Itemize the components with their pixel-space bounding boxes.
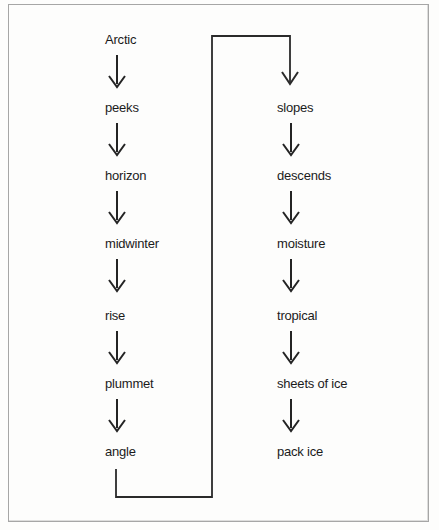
down-arrow-icon xyxy=(278,329,304,367)
flow-term-sheets-of-ice: sheets of ice xyxy=(277,375,347,393)
flow-term-midwinter: midwinter xyxy=(105,235,159,253)
flow-term-horizon: horizon xyxy=(105,167,146,185)
down-arrow-icon xyxy=(104,257,130,295)
down-arrow-icon xyxy=(104,329,130,367)
down-arrow-icon xyxy=(278,257,304,295)
flow-term-plummet: plummet xyxy=(105,375,153,393)
flow-term-peeks: peeks xyxy=(105,99,139,117)
down-arrow-icon xyxy=(104,121,130,159)
worksheet-page: Arctic peeks horizon midwinter rise plum… xyxy=(0,0,439,530)
flow-term-tropical: tropical xyxy=(277,307,317,325)
flow-term-angle: angle xyxy=(105,443,136,461)
flow-term-arctic: Arctic xyxy=(105,31,136,49)
flow-term-moisture: moisture xyxy=(277,235,325,253)
down-arrow-icon xyxy=(278,121,304,159)
down-arrow-icon xyxy=(104,397,130,435)
flow-term-slopes: slopes xyxy=(277,99,313,117)
flow-term-rise: rise xyxy=(105,307,125,325)
down-arrow-icon xyxy=(278,189,304,227)
flow-term-pack-ice: pack ice xyxy=(277,443,323,461)
loop-connector-line xyxy=(0,0,439,530)
flow-term-descends: descends xyxy=(277,167,331,185)
down-arrow-icon xyxy=(278,397,304,435)
down-arrow-icon xyxy=(104,189,130,227)
down-arrow-icon xyxy=(104,53,130,91)
